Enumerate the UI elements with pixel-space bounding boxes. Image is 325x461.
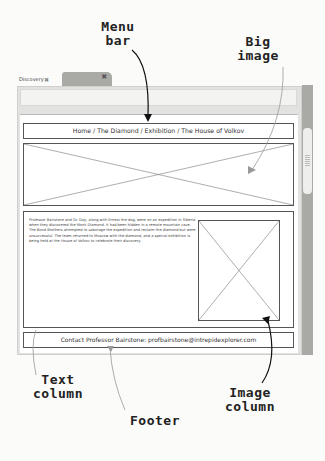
tab-label: Discovery (19, 76, 44, 82)
scrollbar-thumb[interactable] (303, 128, 312, 194)
annotation-menu-bar: Menu bar (93, 20, 143, 48)
breadcrumb[interactable]: Home / The Diamond / Exhibition / The Ho… (73, 127, 244, 134)
annotation-text-column: Text column (28, 373, 88, 401)
footer: Contact Professor Bairstone: profbairsto… (23, 332, 294, 348)
big-image-placeholder (23, 143, 294, 206)
footer-contact[interactable]: Contact Professor Bairstone: profbairsto… (61, 336, 257, 343)
image-placeholder-icon (199, 221, 279, 320)
close-icon[interactable]: ✖ (44, 73, 49, 86)
tab-discovery[interactable]: Discovery ✖ (17, 73, 59, 86)
annotation-image-column: Image column (218, 386, 282, 414)
tab-new[interactable]: ✖ (62, 72, 112, 86)
annotation-footer: Footer (125, 414, 185, 428)
grip-icon (305, 155, 310, 166)
image-placeholder-icon (24, 144, 293, 205)
image-column-placeholder (198, 220, 280, 321)
close-icon[interactable]: ✖ (101, 73, 107, 81)
text-column: Professor Bairstone and Dr. Day, along w… (29, 218, 197, 244)
annotation-big-image: Big image (233, 35, 283, 63)
address-bar[interactable] (20, 89, 297, 106)
menu-bar: Home / The Diamond / Exhibition / The Ho… (23, 123, 294, 139)
scrollbar-track[interactable] (302, 85, 313, 355)
